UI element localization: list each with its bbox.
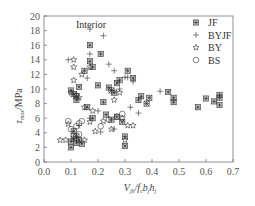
x-tick-label: 0.7 <box>227 166 240 177</box>
legend-label: BYJF <box>208 30 232 41</box>
legend-label: JF <box>208 17 218 28</box>
legend-item-byjf: BYJF <box>193 30 232 41</box>
y-tick-label: 6 <box>35 113 40 124</box>
x-tick-label: 0.5 <box>173 166 186 177</box>
y-tick-label: 12 <box>30 69 40 80</box>
x-tick-label: 0.3 <box>119 166 132 177</box>
y-tick-label: 18 <box>30 25 40 36</box>
legend-label: BY <box>208 42 222 53</box>
y-tick-label: 16 <box>30 40 40 51</box>
x-tick-label: 0.4 <box>146 166 159 177</box>
y-tick-label: 14 <box>30 54 40 65</box>
legend-item-by: BY <box>193 42 222 53</box>
series-by <box>57 57 136 143</box>
annotation-interior: Interior <box>76 19 107 30</box>
y-tick-label: 2 <box>35 142 40 153</box>
x-tick-label: 0.0 <box>38 166 51 177</box>
y-tick-label: 10 <box>30 84 40 95</box>
x-axis-label: Vjh/fcbjhj <box>124 182 157 194</box>
legend-item-bs: BS <box>193 55 220 66</box>
data-points <box>57 26 222 150</box>
y-axis-label: τmax/MPa <box>13 88 25 124</box>
legend-item-jf: JF <box>193 17 217 28</box>
y-axis-ticks: 02468101214161820 <box>30 11 47 168</box>
scatter-chart: 02468101214161820 0.00.10.20.30.40.50.60… <box>0 0 255 206</box>
legend: JFBYJFBYBS <box>193 17 232 66</box>
x-tick-label: 0.6 <box>200 166 213 177</box>
legend-label: BS <box>208 55 220 66</box>
y-tick-label: 8 <box>35 98 40 109</box>
x-tick-label: 0.2 <box>92 166 105 177</box>
x-tick-label: 0.1 <box>65 166 78 177</box>
series-jf <box>68 43 222 150</box>
y-tick-label: 4 <box>35 127 40 138</box>
y-tick-label: 20 <box>30 11 40 22</box>
